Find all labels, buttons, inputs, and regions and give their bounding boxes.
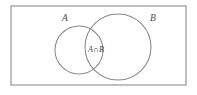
set-a-label: A xyxy=(61,13,68,23)
intersection-label: A∩B xyxy=(87,45,104,54)
set-b-label: B xyxy=(150,13,156,23)
venn-diagram-figure: A B A∩B xyxy=(0,0,197,95)
venn-diagram-canvas: A B A∩B xyxy=(0,0,197,95)
